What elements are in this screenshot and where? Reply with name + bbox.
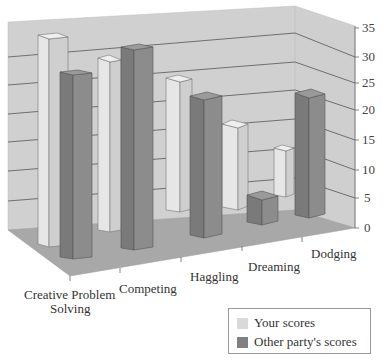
- bar-dodging-your: [274, 145, 294, 197]
- legend-label: Your scores: [254, 315, 315, 331]
- bar-dreaming-other: [247, 191, 278, 225]
- y-tick-5: 5: [364, 190, 371, 205]
- category-label-haggling: Haggling: [190, 269, 239, 284]
- y-tick-0: 0: [364, 220, 371, 235]
- legend-swatch-light-icon: [237, 318, 248, 329]
- bar-dodging-other: [295, 89, 325, 218]
- legend: Your scores Other party's scores: [228, 308, 371, 354]
- bar-haggling-your: [166, 75, 192, 212]
- y-tick-35: 35: [362, 20, 375, 35]
- legend-swatch-dark-icon: [237, 337, 248, 348]
- bar-competing-your: [98, 55, 121, 232]
- y-tick-25: 25: [362, 75, 375, 90]
- bar-competing-other: [121, 44, 153, 250]
- y-tick-10: 10: [362, 162, 375, 177]
- category-label-dreaming: Dreaming: [248, 259, 300, 274]
- y-tick-15: 15: [362, 132, 375, 147]
- bar-creative-other: [60, 70, 92, 259]
- category-label-dodging: Dodging: [311, 246, 357, 261]
- y-tick-20: 20: [362, 102, 375, 117]
- bar-dreaming-your: [222, 120, 248, 210]
- y-axis: [355, 26, 359, 228]
- legend-label: Other party's scores: [254, 334, 357, 350]
- legend-item-your-scores: Your scores: [237, 315, 315, 331]
- bar-haggling-other: [190, 92, 222, 238]
- category-label-creative-line1: Creative Problem: [24, 287, 115, 302]
- category-label-creative-line2: Solving: [50, 301, 91, 316]
- y-tick-30: 30: [362, 49, 375, 64]
- category-label-competing: Competing: [119, 281, 177, 296]
- legend-item-other-scores: Other party's scores: [237, 334, 357, 350]
